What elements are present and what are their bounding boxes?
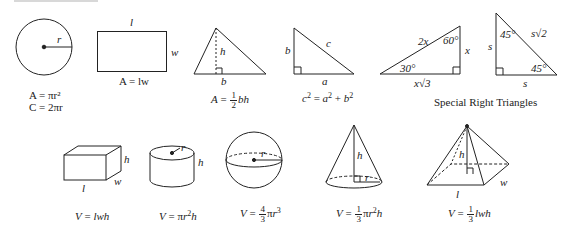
prism-l-label: l	[82, 183, 85, 194]
triangle-height-label: h	[220, 46, 226, 57]
pyramid-volume-formula: V = 13lwh	[448, 205, 491, 224]
triangle-45-45-90-figure	[496, 13, 557, 75]
rectangle-width-label: w	[171, 47, 178, 58]
leg-s-label-1: s	[488, 41, 492, 52]
sphere-figure	[226, 132, 282, 188]
sphere-volume-formula: V = 43πr3	[240, 205, 281, 224]
circle-figure	[16, 19, 72, 75]
pyramid-l-label: l	[456, 189, 459, 200]
sphere-r-label: r	[261, 148, 265, 159]
right-triangle-b-label: b	[285, 45, 291, 56]
angle-45-bottom-label: 45°	[531, 63, 546, 74]
cylinder-r-label: r	[181, 142, 185, 153]
hyp-2x-label: 2x	[418, 36, 428, 47]
prism-h-label: h	[124, 154, 130, 165]
cone-figure	[326, 125, 382, 188]
triangle-base-label: b	[221, 76, 227, 87]
cylinder-h-label: h	[198, 157, 204, 168]
leg-s-label-2: s	[523, 78, 527, 89]
cone-r-label: r	[365, 172, 369, 183]
hyp-s-sqrt2-label: s√2	[531, 28, 547, 39]
special-right-triangles-caption: Special Right Triangles	[434, 96, 537, 108]
cone-volume-formula: V = 13πr2h	[336, 205, 382, 224]
pyramid-figure	[427, 125, 509, 186]
short-leg-x-label: x	[465, 45, 470, 56]
pyramid-h-label: h	[459, 149, 465, 160]
angle-45-top-label: 45°	[500, 29, 515, 40]
right-triangle-figure	[294, 28, 354, 74]
rectangle-length-label: l	[130, 17, 133, 28]
long-leg-label: x√3	[414, 78, 430, 89]
angle-60-label: 60°	[443, 35, 458, 46]
circle-circumference-formula: C = 2πr	[29, 101, 63, 113]
prism-volume-formula: V = lwh	[75, 210, 109, 222]
right-triangle-c-label: c	[326, 38, 331, 49]
triangle-figure	[194, 28, 266, 74]
right-triangle-a-label: a	[322, 76, 328, 87]
pythagorean-formula: c2 = a2 + b2	[302, 92, 353, 104]
cylinder-volume-formula: V = πr2h	[159, 210, 197, 222]
angle-30-label: 30°	[400, 63, 415, 74]
pyramid-w-label: w	[500, 177, 507, 188]
triangle-area-formula: A = 12bh	[211, 91, 249, 110]
circle-radius-label: r	[57, 34, 61, 45]
rectangle-area-formula: A = lw	[119, 75, 149, 87]
cylinder-figure	[150, 146, 194, 187]
cone-h-label: h	[357, 150, 363, 161]
circle-area-formula: A = πr²	[29, 89, 61, 101]
prism-w-label: w	[114, 176, 121, 187]
rectangle-figure	[98, 32, 167, 72]
figures-canvas	[0, 0, 571, 237]
rectangular-prism-figure	[64, 146, 121, 180]
